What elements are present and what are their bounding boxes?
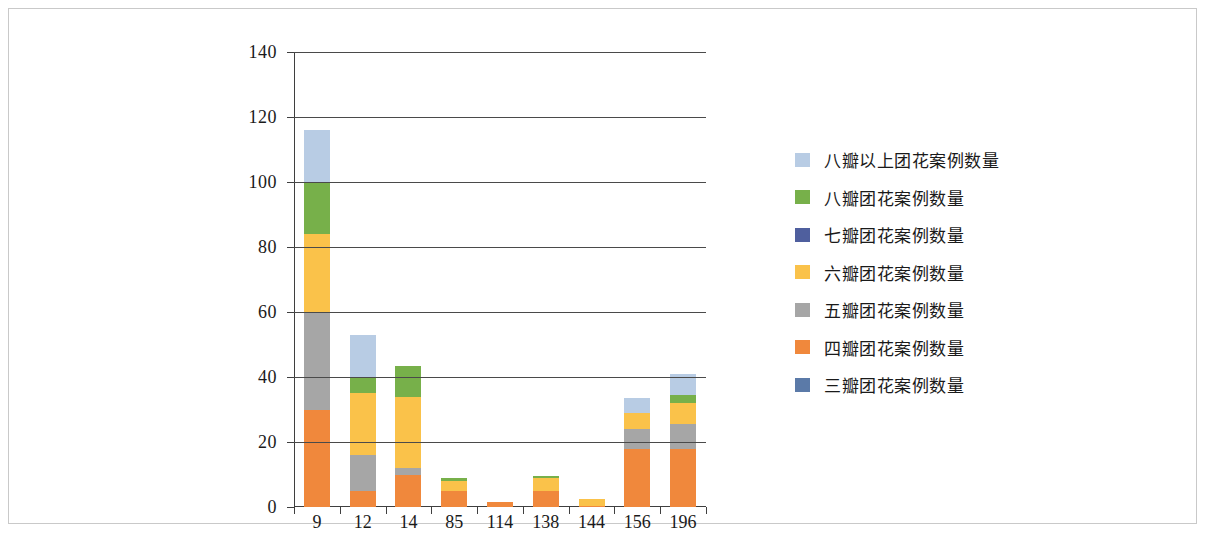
bar-segment[interactable] [304, 234, 330, 312]
bar-column[interactable] [624, 52, 650, 507]
bar-column[interactable] [395, 52, 421, 507]
y-tick-mark [287, 377, 294, 378]
chart-legend: 八瓣以上团花案例数量八瓣团花案例数量七瓣团花案例数量六瓣团花案例数量五瓣团花案例… [795, 141, 1095, 404]
y-tick-mark [287, 442, 294, 443]
page-frame: 020406080100120140 912148511413814415619… [8, 8, 1197, 524]
bar-segment[interactable] [533, 478, 559, 491]
bar-segment[interactable] [304, 312, 330, 410]
y-tick-label: 140 [249, 42, 278, 63]
x-tick-mark [706, 507, 707, 514]
legend-label: 八瓣以上团花案例数量 [824, 147, 999, 172]
legend-item[interactable]: 八瓣以上团花案例数量 [795, 141, 1095, 179]
bar-segment[interactable] [579, 499, 605, 506]
bar-segment[interactable] [395, 366, 421, 397]
bar-column[interactable] [487, 52, 513, 507]
bar-segment[interactable] [670, 395, 696, 403]
legend-swatch-icon [795, 228, 810, 242]
x-tick-label: 114 [487, 512, 513, 533]
bar-segment[interactable] [624, 429, 650, 449]
bar-segment[interactable] [350, 491, 376, 507]
bar-column[interactable] [533, 52, 559, 507]
y-tick-label: 20 [258, 432, 277, 453]
y-tick-mark [287, 507, 294, 508]
x-tick-label: 196 [670, 512, 697, 533]
bar-segment[interactable] [395, 397, 421, 469]
legend-swatch-icon [795, 378, 810, 392]
legend-label: 五瓣团花案例数量 [824, 297, 964, 322]
legend-label: 四瓣团花案例数量 [824, 335, 964, 360]
y-axis-labels: 020406080100120140 [231, 34, 287, 489]
legend-item[interactable]: 七瓣团花案例数量 [795, 216, 1095, 254]
x-tick-label: 138 [532, 512, 559, 533]
y-tick-label: 120 [249, 107, 278, 128]
legend-swatch-icon [795, 265, 810, 279]
legend-label: 八瓣团花案例数量 [824, 185, 964, 210]
bar-segment[interactable] [350, 377, 376, 393]
y-tick-label: 60 [258, 302, 277, 323]
bar-segment[interactable] [304, 410, 330, 508]
y-tick-mark [287, 117, 294, 118]
bar-segment[interactable] [533, 476, 559, 478]
legend-label: 三瓣团花案例数量 [824, 372, 964, 397]
bar-column[interactable] [304, 52, 330, 507]
legend-label: 七瓣团花案例数量 [824, 222, 964, 247]
bar-segment[interactable] [670, 449, 696, 508]
bar-column[interactable] [579, 52, 605, 507]
bar-segment[interactable] [395, 475, 421, 508]
legend-item[interactable]: 三瓣团花案例数量 [795, 366, 1095, 404]
legend-item[interactable]: 八瓣团花案例数量 [795, 179, 1095, 217]
gridline [294, 247, 706, 248]
gridline [294, 182, 706, 183]
gridline [294, 52, 706, 53]
legend-item[interactable]: 六瓣团花案例数量 [795, 254, 1095, 292]
y-tick-label: 0 [268, 497, 278, 518]
bar-segment[interactable] [624, 413, 650, 429]
bar-segment[interactable] [533, 491, 559, 507]
y-tick-mark [287, 182, 294, 183]
y-tick-label: 100 [249, 172, 278, 193]
x-axis-labels: 9121485114138144156196 [294, 512, 706, 535]
bar-segment[interactable] [441, 491, 467, 507]
y-tick-mark [287, 247, 294, 248]
y-tick-label: 40 [258, 367, 277, 388]
bar-segment[interactable] [670, 424, 696, 448]
bar-segment[interactable] [395, 468, 421, 475]
bar-column[interactable] [670, 52, 696, 507]
stacked-bar-chart: 020406080100120140 912148511413814415619… [231, 34, 731, 534]
bar-column[interactable] [350, 52, 376, 507]
legend-swatch-icon [795, 190, 810, 204]
x-tick-label: 85 [445, 512, 463, 533]
legend-swatch-icon [795, 340, 810, 354]
bar-segment[interactable] [441, 478, 467, 481]
gridline [294, 377, 706, 378]
x-tick-label: 144 [578, 512, 605, 533]
bar-segment[interactable] [350, 455, 376, 491]
gridline [294, 312, 706, 313]
bars-layer [294, 52, 706, 507]
bar-segment[interactable] [304, 182, 330, 234]
x-tick-label: 9 [312, 512, 321, 533]
legend-label: 六瓣团花案例数量 [824, 260, 964, 285]
bar-column[interactable] [441, 52, 467, 507]
x-tick-label: 12 [354, 512, 372, 533]
bar-segment[interactable] [350, 335, 376, 377]
bar-segment[interactable] [350, 393, 376, 455]
legend-swatch-icon [795, 153, 810, 167]
bar-segment[interactable] [304, 130, 330, 182]
legend-item[interactable]: 五瓣团花案例数量 [795, 291, 1095, 329]
bar-segment[interactable] [579, 506, 605, 507]
bar-segment[interactable] [441, 481, 467, 491]
y-tick-mark [287, 312, 294, 313]
y-tick-mark [287, 52, 294, 53]
bar-segment[interactable] [624, 398, 650, 413]
bar-segment[interactable] [670, 403, 696, 424]
plot-area [294, 52, 706, 507]
gridline [294, 442, 706, 443]
gridline [294, 117, 706, 118]
bar-segment[interactable] [624, 449, 650, 508]
bar-segment[interactable] [487, 502, 513, 507]
x-tick-label: 14 [399, 512, 417, 533]
legend-swatch-icon [795, 303, 810, 317]
y-tick-label: 80 [258, 237, 277, 258]
legend-item[interactable]: 四瓣团花案例数量 [795, 329, 1095, 367]
